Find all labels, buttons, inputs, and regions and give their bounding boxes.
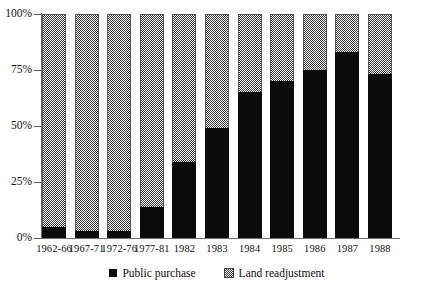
chart-legend: Public purchaseLand readjustment <box>0 267 434 279</box>
x-axis-line <box>41 238 400 239</box>
bar-segment-land-readjustment[interactable] <box>75 14 99 231</box>
bar-column[interactable] <box>140 14 164 238</box>
bar-column[interactable] <box>107 14 131 238</box>
bar-column[interactable] <box>238 14 262 238</box>
y-axis-tick <box>34 238 41 239</box>
bar-segment-land-readjustment[interactable] <box>140 14 164 207</box>
bar-column[interactable] <box>42 14 66 238</box>
y-axis-tick <box>34 182 41 183</box>
bar-column[interactable] <box>205 14 229 238</box>
solid-black-square-icon <box>109 269 117 277</box>
legend-item[interactable]: Public purchase <box>109 267 195 279</box>
y-axis-tick <box>34 14 41 15</box>
y-axis-tick-label: 0% <box>0 231 32 243</box>
stacked-bar-chart: 0%25%50%75%100% 1962-661967-711972-76197… <box>0 0 434 289</box>
bar-segment-land-readjustment[interactable] <box>205 14 229 128</box>
x-axis-tick-label: 1988 <box>350 243 410 254</box>
bar-segment-land-readjustment[interactable] <box>42 14 66 227</box>
bar-segment-public-purchase[interactable] <box>172 162 196 238</box>
legend-item[interactable]: Land readjustment <box>224 267 325 279</box>
bar-column[interactable] <box>303 14 327 238</box>
bar-segment-public-purchase[interactable] <box>107 231 131 238</box>
y-axis-tick <box>34 126 41 127</box>
bar-column[interactable] <box>335 14 359 238</box>
bar-segment-public-purchase[interactable] <box>270 81 294 238</box>
bar-segment-public-purchase[interactable] <box>75 231 99 238</box>
plot-area <box>42 14 400 238</box>
bar-segment-land-readjustment[interactable] <box>270 14 294 81</box>
bar-segment-public-purchase[interactable] <box>42 227 66 238</box>
bar-segment-land-readjustment[interactable] <box>172 14 196 162</box>
bar-segment-land-readjustment[interactable] <box>368 14 392 74</box>
legend-item-label: Public purchase <box>122 267 195 279</box>
bar-segment-public-purchase[interactable] <box>205 128 229 238</box>
bar-segment-public-purchase[interactable] <box>140 207 164 238</box>
legend-item-label: Land readjustment <box>239 267 325 279</box>
y-axis-tick-label: 75% <box>0 63 32 75</box>
bar-segment-land-readjustment[interactable] <box>335 14 359 52</box>
bar-column[interactable] <box>270 14 294 238</box>
bar-segment-public-purchase[interactable] <box>368 74 392 238</box>
bar-segment-public-purchase[interactable] <box>335 52 359 238</box>
y-axis-tick-label: 25% <box>0 175 32 187</box>
bar-segment-land-readjustment[interactable] <box>303 14 327 70</box>
bar-column[interactable] <box>368 14 392 238</box>
bar-column[interactable] <box>75 14 99 238</box>
y-axis-tick-label: 50% <box>0 119 32 131</box>
checkered-square-icon <box>224 268 234 278</box>
y-axis-tick-label: 100% <box>0 7 32 19</box>
bar-segment-land-readjustment[interactable] <box>107 14 131 231</box>
bar-segment-public-purchase[interactable] <box>303 70 327 238</box>
bar-segment-land-readjustment[interactable] <box>238 14 262 92</box>
bar-segment-public-purchase[interactable] <box>238 92 262 238</box>
bar-column[interactable] <box>172 14 196 238</box>
y-axis-tick <box>34 70 41 71</box>
